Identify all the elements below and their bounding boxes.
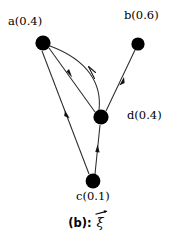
edge-d-to-b	[106, 50, 135, 111]
caption-symbol-xi-vector: ξ	[96, 215, 105, 231]
node-label-c-text: c(0.1)	[76, 189, 110, 203]
node-d[interactable]	[93, 109, 108, 124]
figure-panel: a(0.4) b(0.6) d(0.4) c(0.1) (b): ξ	[0, 0, 173, 245]
node-label-d: d(0.4)	[127, 110, 162, 122]
arrowhead-group	[64, 67, 124, 153]
arrowhead-c-to-a	[64, 111, 70, 119]
directed-graph-canvas	[0, 0, 173, 245]
node-label-d-text: d(0.4)	[127, 108, 162, 122]
edge-d-to-a-straight	[49, 48, 95, 112]
node-label-a: a(0.4)	[8, 16, 42, 28]
edge-group	[42, 46, 135, 174]
node-c[interactable]	[86, 174, 101, 189]
node-label-a-text: a(0.4)	[8, 14, 42, 28]
edge-d-to-a-curved	[50, 46, 99, 110]
node-a[interactable]	[35, 35, 50, 50]
node-label-b: b(0.6)	[124, 10, 159, 22]
caption-tag: (b):	[68, 216, 91, 230]
node-label-b-text: b(0.6)	[124, 8, 159, 22]
figure-caption: (b): ξ	[0, 215, 173, 231]
node-label-c: c(0.1)	[76, 191, 110, 203]
node-b[interactable]	[131, 37, 144, 50]
vector-arrow-icon	[95, 210, 108, 216]
caption-symbol-text: ξ	[97, 215, 104, 230]
arrowhead-c-to-d	[95, 145, 99, 153]
